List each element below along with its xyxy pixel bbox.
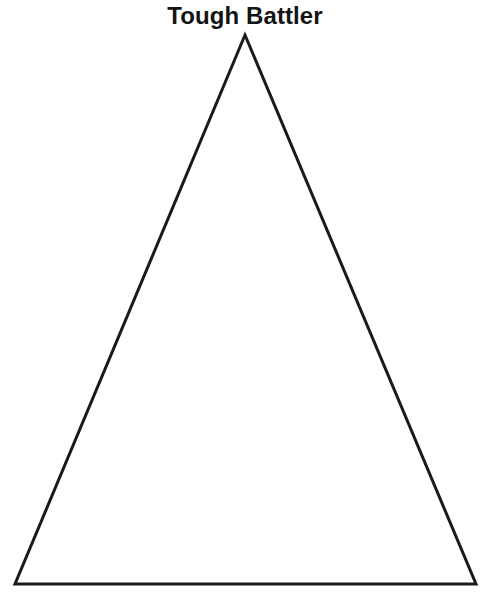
triangle-diagram (0, 0, 490, 599)
triangle-outline-icon (15, 35, 476, 584)
diagram-canvas: Tough Battler (0, 0, 490, 599)
diagram-layer (0, 0, 490, 599)
